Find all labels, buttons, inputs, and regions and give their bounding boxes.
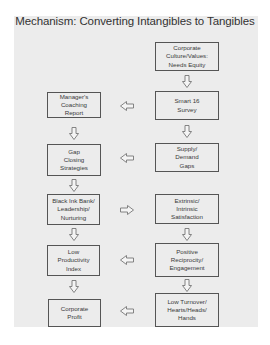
arrow-down-icon [182,75,192,88]
box-smart-16-survey: Smart 16 Survey [155,91,219,120]
arrow-down-icon [69,228,79,241]
box-corporate-culture: Corporate Culture/Values: Needs Equity [155,42,219,71]
arrow-down-icon [69,127,79,140]
box-corporate-profit: Corporate Profit [48,299,101,327]
box-low-turnover: Low Turnover/ Hearts/Heads/ Hands [155,293,219,327]
arrow-left-icon [120,306,134,316]
arrow-left-icon [120,255,134,265]
box-supply-demand-gaps: Supply/ Demand Gaps [155,143,219,172]
arrow-down-icon [182,228,192,241]
arrow-left-icon [120,153,134,163]
box-extrinsic-intrinsic-satisfaction: Extrinsic/ Intrinsic Satisfaction [155,194,219,224]
box-gap-closing-strategies: Gap Closing Strategies [47,144,101,176]
box-managers-coaching-report: Manager's Coaching Report [47,92,101,118]
arrow-down-icon [69,280,79,293]
arrow-down-icon [182,125,192,138]
arrow-down-icon [69,179,79,192]
diagram-title: Mechanism: Converting Intangibles to Tan… [0,15,270,27]
box-low-productivity-index: Low Productivity Index [47,245,100,276]
box-black-ink-bank: Black Ink Bank/ Leadership/ Nurturing [47,194,100,225]
box-positive-reciprocity: Positive Reciprocity/ Engagement [155,243,219,277]
arrow-down-icon [182,279,192,292]
arrow-right-icon [120,205,134,215]
arrow-left-icon [120,101,134,111]
